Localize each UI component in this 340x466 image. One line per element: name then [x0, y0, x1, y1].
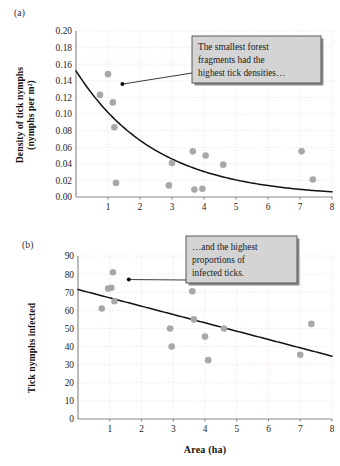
- x-tick-label: 1: [107, 424, 112, 434]
- x-tick-label: 7: [298, 424, 303, 434]
- data-point: [110, 269, 117, 276]
- y-tick-label: 70: [65, 288, 75, 298]
- x-tick-label: 8: [330, 202, 335, 212]
- data-point: [191, 316, 198, 323]
- data-point: [308, 321, 315, 328]
- callout-text-line: fragments had the: [198, 55, 265, 65]
- callout-anchor-dot: [127, 278, 131, 282]
- y-tick-label: 60: [65, 306, 75, 316]
- data-point: [99, 305, 106, 312]
- y-tick-label: 30: [65, 360, 75, 370]
- y-tick-label: 0.04: [56, 159, 73, 169]
- y-tick-label: 0.18: [56, 43, 73, 53]
- x-tick-label: 3: [170, 202, 175, 212]
- data-point: [190, 148, 197, 155]
- data-point: [221, 325, 228, 332]
- data-point: [168, 343, 175, 350]
- callout-text-line: The smallest forest: [198, 42, 269, 52]
- data-point: [310, 176, 317, 183]
- y-tick-label: 0.14: [56, 76, 73, 86]
- y-tick-label: 0.08: [56, 126, 73, 136]
- data-point: [199, 185, 206, 192]
- data-point: [105, 71, 112, 78]
- data-point: [189, 288, 196, 295]
- data-point: [202, 333, 209, 340]
- data-point: [191, 186, 198, 193]
- data-point: [111, 124, 118, 131]
- data-point: [113, 180, 120, 187]
- callout-text-line: …and the highest: [192, 242, 258, 252]
- x-tick-label: 6: [266, 424, 271, 434]
- x-tick-label: 1: [106, 202, 111, 212]
- x-tick-label: 4: [202, 202, 207, 212]
- data-point: [220, 161, 227, 168]
- panel-b-plot: 010203040506070809012345678…and the high…: [0, 232, 340, 442]
- y-tick-label: 0.10: [56, 109, 73, 119]
- y-tick-label: 80: [65, 270, 75, 280]
- x-tick-label: 4: [203, 424, 208, 434]
- y-tick-label: 90: [65, 251, 75, 261]
- y-tick-label: 10: [65, 396, 75, 406]
- x-tick-label: 2: [139, 424, 144, 434]
- y-tick-label: 0.06: [56, 143, 73, 153]
- callout-text-line: highest tick densities…: [198, 68, 285, 78]
- data-point: [205, 357, 212, 364]
- data-point: [111, 298, 118, 305]
- data-point: [110, 99, 117, 106]
- x-tick-label: 3: [171, 424, 176, 434]
- y-tick-label: 0.16: [56, 60, 73, 70]
- y-tick-label: 0: [69, 414, 74, 424]
- y-tick-label: 20: [65, 378, 75, 388]
- y-tick-label: 0.20: [56, 26, 73, 36]
- callout-text-line: infected ticks.: [192, 268, 244, 278]
- x-tick-label: 2: [138, 202, 143, 212]
- y-tick-label: 0.12: [56, 93, 73, 103]
- x-tick-label: 7: [298, 202, 303, 212]
- panel-b-x-axis-label: Area (ha): [76, 444, 334, 455]
- data-point: [166, 182, 173, 189]
- data-point: [169, 160, 176, 167]
- x-tick-label: 8: [330, 424, 335, 434]
- x-tick-label: 5: [234, 202, 239, 212]
- y-tick-label: 0.02: [56, 176, 73, 186]
- panel-b: (b) Tick nymphs infected Area (ha) 01020…: [0, 232, 340, 466]
- panel-a: (a) Density of tick nymphs (nymphs per m…: [0, 0, 340, 232]
- figure-tick-density-vs-fragment-area: (a) Density of tick nymphs (nymphs per m…: [0, 0, 340, 466]
- data-point: [298, 148, 305, 155]
- data-point: [167, 325, 174, 332]
- data-point: [202, 152, 209, 159]
- y-tick-label: 40: [65, 342, 75, 352]
- data-point: [108, 284, 115, 291]
- y-tick-label: 0.00: [56, 192, 73, 202]
- data-point: [97, 92, 104, 99]
- callout-text-line: proportions of: [192, 255, 246, 265]
- x-tick-label: 5: [234, 424, 239, 434]
- panel-a-plot: 0.000.020.040.060.080.100.120.140.160.18…: [0, 0, 340, 232]
- callout-leader-line: [122, 73, 192, 84]
- x-tick-label: 6: [266, 202, 271, 212]
- callout-anchor-dot: [120, 82, 124, 86]
- data-point: [297, 351, 304, 358]
- y-tick-label: 50: [65, 324, 75, 334]
